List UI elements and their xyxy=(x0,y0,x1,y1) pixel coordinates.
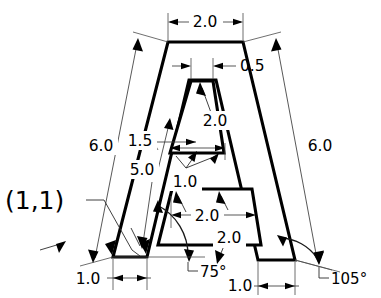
dim-label-lower-height: 2.0 xyxy=(217,229,242,247)
origin-coordinate-label: (1,1) xyxy=(5,186,64,215)
arrowhead-low-height xyxy=(215,250,225,264)
arrowhead-right xyxy=(233,19,243,26)
dim-label-top-width: 2.0 xyxy=(193,13,218,31)
arrowhead-leg-bottom xyxy=(88,249,99,263)
arrowhead-splay-b xyxy=(210,153,219,164)
dim-crossbar-thickness: 1.0 xyxy=(169,172,202,191)
arrowhead-rleg-top xyxy=(271,38,282,52)
dim-right-foot: 1.0 xyxy=(228,262,299,295)
dim-label-right-leg: 6.0 xyxy=(308,137,333,155)
dim-label-lower-width: 2.0 xyxy=(195,207,220,225)
arrowhead-left xyxy=(168,19,178,26)
dim-label-inner-offset: 1.5 xyxy=(128,132,153,150)
arrowhead-lfoot-left xyxy=(113,275,123,282)
arrowhead-foot-hint xyxy=(56,241,66,253)
dim-label-inner-gap: 0.5 xyxy=(240,57,265,75)
arrowhead-rfoot-right xyxy=(285,283,295,290)
arrowhead-angle75-bottom xyxy=(184,249,194,262)
dim-label-left-foot: 1.0 xyxy=(76,270,101,288)
dim-label-right-foot: 1.0 xyxy=(228,277,253,295)
arrowhead-angle105-bottom xyxy=(314,251,325,265)
dim-label-left-leg: 6.0 xyxy=(89,137,114,155)
dim-lower-opening-height: 2.0 xyxy=(213,229,246,264)
dim-label-upper-triangle: 2.0 xyxy=(203,112,228,130)
arrowhead-lfoot-right xyxy=(137,275,147,282)
angle-label-75: 75° xyxy=(200,263,227,281)
technical-drawing-canvas: 2.0 0.5 6.0 xyxy=(0,0,381,298)
cad-drawing-svg: 2.0 0.5 6.0 xyxy=(0,0,381,298)
part-outline-group xyxy=(113,42,295,260)
dim-label-crossbar: 1.0 xyxy=(173,173,198,191)
arrowhead-leg-top xyxy=(133,38,144,52)
arrowhead-rfoot-left xyxy=(258,283,268,290)
dim-label-inner-leg: 5.0 xyxy=(130,161,155,179)
dim-top-width: 2.0 xyxy=(168,13,243,40)
angle-label-105: 105° xyxy=(331,270,367,288)
